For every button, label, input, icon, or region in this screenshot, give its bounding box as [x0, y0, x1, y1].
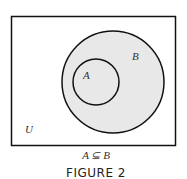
set-a-circle: [73, 59, 119, 105]
venn-diagram: A B U A ⊆ B FIGURE 2: [0, 0, 187, 179]
set-a-label: A: [82, 69, 90, 81]
universe-label: U: [25, 123, 34, 135]
relation-label: A ⊆ B: [81, 149, 110, 161]
set-b-label: B: [132, 50, 139, 62]
figure-caption: FIGURE 2: [66, 166, 126, 179]
